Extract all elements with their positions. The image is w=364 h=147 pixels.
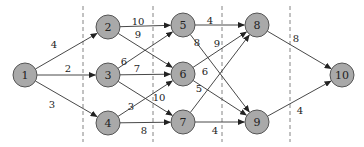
edge-weight-3-7: 10 [153, 92, 166, 103]
node-2: 2 [96, 15, 120, 39]
edge-weight-4-7: 8 [141, 125, 147, 136]
node-6: 6 [171, 62, 195, 86]
edge-weight-8-10: 8 [293, 33, 299, 44]
edge-weight-3-5: 6 [121, 56, 127, 67]
edge-weight-2-5: 10 [132, 16, 145, 27]
edge-weight-5-8: 4 [207, 15, 213, 26]
edge-weight-1-2: 4 [51, 39, 57, 50]
node-4: 4 [96, 111, 120, 135]
node-1: 1 [13, 63, 37, 87]
node-5: 5 [171, 13, 195, 37]
edge-weight-3-6: 7 [134, 63, 140, 74]
edge-weight-1-4: 3 [49, 99, 55, 110]
edge-weight-4-6: 3 [128, 101, 134, 112]
edge-weight-2-6: 9 [135, 29, 141, 40]
node-3: 3 [96, 63, 120, 87]
node-label: 7 [180, 116, 187, 129]
node-9: 9 [245, 110, 269, 134]
edge-weight-6-8: 6 [202, 66, 208, 77]
node-label: 1 [22, 69, 29, 82]
edge-weight-7-8: 9 [214, 38, 220, 49]
node-8: 8 [245, 13, 269, 37]
edge-weight-7-9: 4 [212, 125, 218, 136]
edge-weight-1-3: 2 [65, 63, 71, 74]
edge-1-to-4 [35, 81, 97, 117]
edge-4-to-7 [120, 122, 171, 123]
node-label: 6 [180, 68, 187, 81]
edge-weight-9-10: 4 [297, 105, 303, 116]
node-7: 7 [171, 110, 195, 134]
node-label: 10 [335, 69, 349, 82]
staged-network-diagram: 12345678910 42310967103848659484 [0, 0, 364, 147]
node-label: 5 [180, 19, 187, 32]
nodes: 12345678910 [13, 13, 354, 135]
node-label: 9 [254, 116, 261, 129]
edge-8-to-10 [267, 31, 331, 69]
edge-weight-6-9: 5 [196, 83, 202, 94]
node-label: 4 [105, 117, 112, 130]
edge-2-to-5 [120, 25, 171, 26]
edge-3-to-6 [120, 74, 171, 75]
node-label: 2 [105, 21, 112, 34]
edge-weight-5-9: 8 [194, 37, 200, 48]
node-label: 8 [254, 19, 261, 32]
node-label: 3 [105, 69, 112, 82]
node-10: 10 [330, 63, 354, 87]
